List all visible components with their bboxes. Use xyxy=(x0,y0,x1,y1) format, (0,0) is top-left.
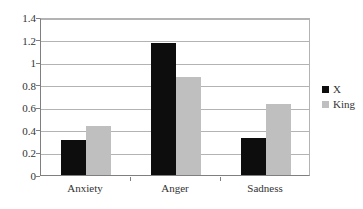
legend-swatch-icon xyxy=(322,86,329,93)
bar-anger-king xyxy=(176,77,201,175)
legend-item-king: King xyxy=(322,97,363,112)
x-tick-mark xyxy=(130,177,131,181)
x-tick-label-sadness: Sadness xyxy=(247,182,282,194)
bar-chart: 00.20.40.60.811.21.4 AnxietyAngerSadness… xyxy=(0,0,363,209)
legend-label: X xyxy=(333,84,341,95)
legend-label: King xyxy=(333,99,355,110)
bar-anxiety-x xyxy=(61,140,86,175)
bar-sadness-king xyxy=(266,104,291,175)
plot-area xyxy=(40,18,310,176)
y-tick-label: 1.4 xyxy=(0,13,36,24)
y-tick-label: 0.6 xyxy=(0,103,36,114)
y-tick-label: 1 xyxy=(0,58,36,69)
y-tick-label: 0.4 xyxy=(0,125,36,136)
legend: XKing xyxy=(322,82,363,112)
bar-anger-x xyxy=(151,43,176,175)
bar-sadness-x xyxy=(241,138,266,175)
bar-anxiety-king xyxy=(86,126,111,175)
y-tick-label: 1.2 xyxy=(0,35,36,46)
x-tick-mark xyxy=(220,177,221,181)
gridline xyxy=(41,19,309,20)
y-tick-label: 0.2 xyxy=(0,148,36,159)
x-tick-label-anger: Anger xyxy=(161,182,189,194)
legend-item-x: X xyxy=(322,82,363,97)
y-tick-label: 0.8 xyxy=(0,80,36,91)
x-tick-label-anxiety: Anxiety xyxy=(67,182,102,194)
legend-swatch-icon xyxy=(322,101,329,108)
gridline xyxy=(41,41,309,42)
y-tick-label: 0 xyxy=(0,171,36,182)
